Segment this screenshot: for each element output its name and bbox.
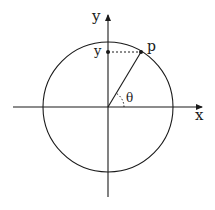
x-axis-label: x bbox=[195, 108, 203, 123]
point-p-label: p bbox=[147, 39, 156, 53]
point-y bbox=[106, 50, 110, 54]
angle-arc bbox=[116, 93, 124, 107]
y-projection-label: y bbox=[94, 44, 101, 57]
radius-line bbox=[108, 52, 141, 107]
y-axis-label: y bbox=[92, 9, 100, 24]
unit-circle-diagram bbox=[0, 0, 215, 210]
angle-label: θ bbox=[126, 92, 133, 104]
point-p bbox=[139, 50, 143, 54]
